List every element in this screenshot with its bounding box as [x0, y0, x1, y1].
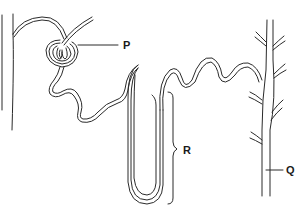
efferent-vessel [62, 17, 93, 45]
label-r: R [183, 144, 191, 156]
proximal-convoluted-tubule [49, 65, 138, 122]
loop-of-henle [128, 65, 163, 204]
distal-convoluted-tubule [160, 58, 262, 110]
label-p: P [123, 39, 130, 51]
label-q: Q [286, 164, 295, 176]
afferent-vessel [2, 14, 67, 130]
nephron-diagram [0, 0, 301, 220]
label-r-bracket [168, 92, 177, 204]
glomerulus [57, 48, 68, 59]
